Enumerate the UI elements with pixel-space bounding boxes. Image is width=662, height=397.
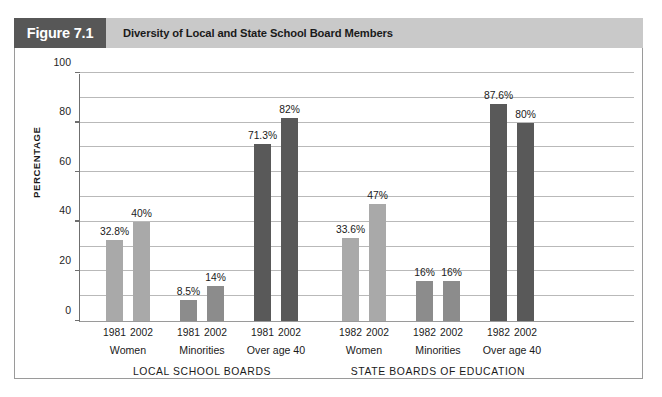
y-axis-title: PERCENTAGE (31, 127, 42, 198)
y-axis-tick (75, 72, 80, 73)
bar: 47%2002 (369, 204, 386, 321)
y-axis-tick-label: 20 (59, 254, 71, 266)
bar: 16%1982 (416, 281, 433, 321)
y-axis-tick-label: 100 (53, 56, 71, 68)
gridline (80, 146, 634, 147)
figure-number-badge: Figure 7.1 (14, 18, 106, 48)
x-axis-year-label: 2002 (204, 327, 227, 338)
y-axis-tick (75, 270, 80, 271)
bar-value-label: 71.3% (248, 130, 277, 141)
bar: 14%2002 (207, 286, 224, 321)
y-axis-tick-label: 60 (59, 155, 71, 167)
x-axis-year-label: 1982 (487, 327, 510, 338)
y-axis-tick-label: 40 (59, 204, 71, 216)
bar: 82%2002 (281, 118, 298, 321)
gridline (80, 122, 634, 123)
bar-value-label: 82% (279, 104, 300, 115)
bar: 8.5%1981 (180, 300, 197, 321)
bar-value-label: 8.5% (177, 286, 200, 297)
y-axis-tick (75, 320, 80, 321)
figure-title-text: Diversity of Local and State School Boar… (123, 27, 393, 39)
x-axis-category-label: Women (346, 344, 382, 356)
x-axis-year-label: 1982 (413, 327, 436, 338)
y-axis-tick (75, 121, 80, 122)
x-axis-year-label: 1981 (177, 327, 200, 338)
x-axis-year-label: 2002 (278, 327, 301, 338)
bar-value-label: 32.8% (100, 226, 129, 237)
bar: 87.6%1982 (490, 104, 507, 321)
x-axis-category-label: Over age 40 (247, 344, 305, 356)
x-axis-year-label: 1982 (339, 327, 362, 338)
y-axis-tick-label: 80 (59, 105, 71, 117)
x-axis-year-label: 2002 (514, 327, 537, 338)
x-axis-year-label: 1981 (103, 327, 126, 338)
panel-label: STATE BOARDS OF EDUCATION (351, 366, 525, 377)
figure-number-text: Figure 7.1 (27, 25, 94, 41)
panel-label: LOCAL SCHOOL BOARDS (133, 366, 271, 377)
plot-area: 02040608010032.8%198140%2002Women8.5%198… (79, 74, 634, 322)
gridline (80, 171, 634, 172)
gridline (80, 72, 634, 73)
bar: 16%2002 (443, 281, 460, 321)
y-axis-tick (75, 220, 80, 221)
gridline (80, 97, 634, 98)
bar: 71.3%1981 (254, 144, 271, 321)
figure-header: Figure 7.1 Diversity of Local and State … (14, 18, 643, 48)
y-axis-tick-label: 0 (65, 304, 71, 316)
bar: 32.8%1981 (106, 240, 123, 321)
bar-value-label: 40% (131, 208, 152, 219)
bar: 33.6%1982 (342, 238, 359, 321)
bar: 80%2002 (517, 123, 534, 321)
figure-body: PERCENTAGE 02040608010032.8%198140%2002W… (14, 48, 643, 379)
bar-value-label: 47% (367, 190, 388, 201)
x-axis-category-label: Women (110, 344, 146, 356)
bar-value-label: 16% (441, 267, 462, 278)
y-axis-tick (75, 171, 80, 172)
bar-value-label: 16% (414, 267, 435, 278)
x-axis-category-label: Minorities (415, 344, 460, 356)
x-axis-year-label: 1981 (251, 327, 274, 338)
x-axis-category-label: Minorities (179, 344, 224, 356)
figure-title-bar: Diversity of Local and State School Boar… (106, 18, 643, 48)
x-axis-year-label: 2002 (366, 327, 389, 338)
x-axis-year-label: 2002 (440, 327, 463, 338)
gridline (80, 221, 634, 222)
gridline (80, 196, 634, 197)
x-axis-category-label: Over age 40 (483, 344, 541, 356)
bar-value-label: 87.6% (484, 90, 513, 101)
bar-value-label: 80% (515, 109, 536, 120)
bar: 40%2002 (133, 222, 150, 321)
bar-value-label: 14% (205, 272, 226, 283)
bar-value-label: 33.6% (336, 224, 365, 235)
x-axis-year-label: 2002 (130, 327, 153, 338)
